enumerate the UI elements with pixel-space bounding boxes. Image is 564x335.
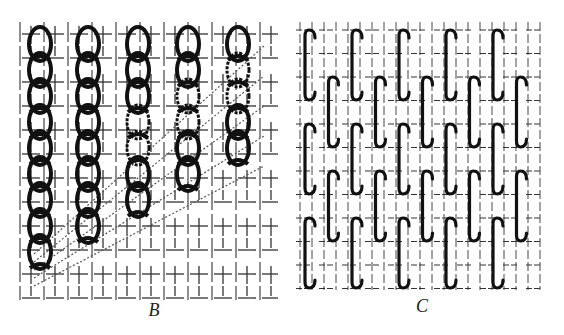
figure-c-caption: C — [402, 296, 442, 317]
chain-column — [177, 27, 199, 191]
figure-c-hook-stitch — [292, 18, 548, 294]
chain-column — [127, 27, 149, 217]
chain-column — [29, 27, 51, 269]
figure-b-caption: B — [134, 300, 174, 321]
hook-stitches — [305, 30, 527, 288]
chain-stitch-illustration — [14, 16, 278, 300]
chain-column — [227, 27, 249, 165]
figure-b-chain-stitch — [14, 16, 278, 300]
hook-stitch-illustration — [292, 18, 548, 294]
ground-grid — [296, 22, 540, 290]
chain-column — [77, 27, 99, 243]
